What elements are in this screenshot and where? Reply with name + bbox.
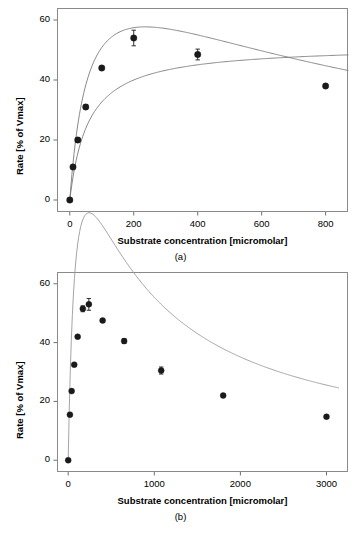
data-point [220,393,226,399]
y-tick-label: 60 [17,277,50,288]
data-point [67,412,73,418]
panel-caption-a: (a) [0,251,361,262]
x-tick-label: 0 [45,218,95,229]
data-point [99,65,105,71]
data-point [121,338,127,344]
x-tick-label: 2000 [215,478,265,489]
y-tick-label: 60 [17,13,50,24]
panel-b: Rate [% of Vmax] Substrate concentration… [0,267,361,534]
data-point [86,301,92,307]
y-tick-label: 20 [17,133,50,144]
x-tick-label: 0 [43,478,93,489]
data-point [83,104,89,110]
y-tick-label: 40 [17,336,50,347]
data-point [69,388,75,394]
data-point [71,362,77,368]
figure-container: Rate [% of Vmax] Substrate concentration… [0,0,361,534]
panel-caption-b: (b) [0,511,361,522]
data-point [67,197,73,203]
plot-canvas-b [0,267,361,534]
x-tick-label: 3000 [301,478,351,489]
data-point [70,164,76,170]
data-point [80,306,86,312]
x-tick-label: 400 [173,218,223,229]
x-tick-label: 1000 [129,478,179,489]
x-axis-title-b: Substrate concentration [micromolar] [22,495,361,506]
fit-curve-0 [70,27,348,200]
panel-a: Rate [% of Vmax] Substrate concentration… [0,0,361,267]
x-tick-label: 800 [301,218,351,229]
data-point [65,457,71,463]
y-tick-label: 0 [17,453,50,464]
y-tick-label: 0 [17,193,50,204]
data-point [322,83,328,89]
data-point [75,137,81,143]
y-tick-label: 20 [17,394,50,405]
data-point [131,35,137,41]
data-point [75,334,81,340]
data-point [323,414,329,420]
data-point [195,51,201,57]
data-point [100,318,106,324]
x-axis-title-a: Substrate concentration [micromolar] [22,235,361,246]
y-tick-label: 40 [17,73,50,84]
data-point [158,368,164,374]
fit-curve-1 [70,55,348,200]
x-tick-label: 600 [237,218,287,229]
x-tick-label: 200 [109,218,159,229]
